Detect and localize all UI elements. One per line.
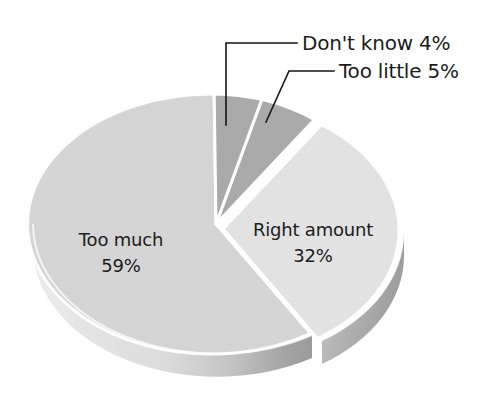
pie-chart-canvas: Don't know 4% Too little 5% Too much 59%… [0,0,489,398]
pie-chart-figure: Don't know 4% Too little 5% Too much 59%… [0,0,489,398]
slice-label-too-much-value: 59% [101,255,141,276]
slice-label-too-much-name: Too much [78,229,163,250]
slice-label-right-amount-value: 32% [293,245,333,266]
slice-label-right-amount-name: Right amount [253,219,373,240]
callout-label-dont-know: Don't know 4% [302,31,450,55]
callout-label-too-little: Too little 5% [338,59,459,83]
